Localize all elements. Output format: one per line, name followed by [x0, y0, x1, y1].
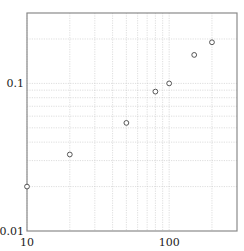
data-point	[25, 184, 30, 189]
data-point	[67, 152, 72, 157]
grid	[27, 13, 237, 231]
scatter-chart: 101000.010.1	[0, 0, 244, 251]
plot-frame	[27, 13, 237, 231]
data-point	[153, 89, 158, 94]
x-tick-label: 100	[159, 236, 180, 249]
data-point	[192, 53, 197, 58]
data-point	[124, 121, 129, 126]
data-points	[25, 40, 215, 189]
y-tick-label: 0.01	[0, 225, 24, 238]
data-point	[167, 81, 172, 86]
data-point	[210, 40, 215, 45]
y-tick-label: 0.1	[7, 77, 25, 90]
